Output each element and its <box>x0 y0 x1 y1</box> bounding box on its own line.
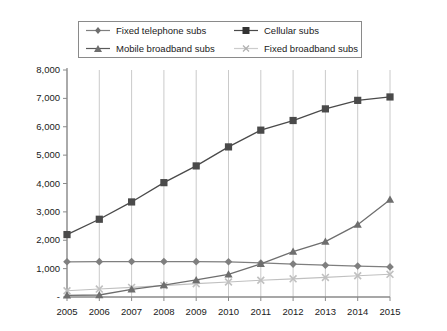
x-tick-label: 2009 <box>178 307 214 317</box>
y-tick-label: 1,000 <box>18 264 60 274</box>
data-point-diamond <box>289 260 297 268</box>
x-tick-label: 2015 <box>372 307 408 317</box>
y-tick-label: 6,000 <box>18 122 60 132</box>
x-tick-label: 2010 <box>211 307 247 317</box>
data-point-square <box>63 231 70 238</box>
x-tick-label: 2012 <box>275 307 311 317</box>
plot-area <box>0 0 447 331</box>
data-point-square <box>160 179 167 186</box>
x-tick-label: 2006 <box>81 307 117 317</box>
y-tick-label: 2,000 <box>18 235 60 245</box>
y-tick-label: - <box>18 292 60 302</box>
data-point-square <box>354 97 361 104</box>
y-tick-label: 3,000 <box>18 207 60 217</box>
data-point-diamond <box>192 258 200 266</box>
x-tick-label: 2011 <box>243 307 279 317</box>
y-tick-label: 8,000 <box>18 65 60 75</box>
data-point-square <box>322 105 329 112</box>
data-point-triangle <box>386 196 394 203</box>
data-point-square <box>96 216 103 223</box>
data-point-diamond <box>128 258 136 266</box>
x-tick-label: 2013 <box>307 307 343 317</box>
data-point-diamond <box>225 258 233 266</box>
data-point-square <box>386 93 393 100</box>
x-tick-label: 2005 <box>49 307 85 317</box>
data-point-square <box>290 117 297 124</box>
x-tick-label: 2014 <box>340 307 376 317</box>
y-tick-label: 7,000 <box>18 93 60 103</box>
y-tick-label: 4,000 <box>18 179 60 189</box>
data-point-diamond <box>386 263 394 271</box>
data-point-square <box>128 198 135 205</box>
data-point-triangle <box>321 238 329 245</box>
data-point-square <box>225 143 232 150</box>
data-point-diamond <box>160 258 168 266</box>
x-tick-label: 2007 <box>114 307 150 317</box>
data-point-diamond <box>63 258 71 266</box>
line-chart: Fixed telephone subs Cellular subs Mobil… <box>0 0 447 331</box>
data-point-square <box>257 127 264 134</box>
data-point-diamond <box>322 261 330 269</box>
data-point-diamond <box>354 262 362 270</box>
y-tick-label: 5,000 <box>18 150 60 160</box>
data-point-diamond <box>96 258 104 266</box>
x-tick-label: 2008 <box>146 307 182 317</box>
data-point-square <box>193 162 200 169</box>
